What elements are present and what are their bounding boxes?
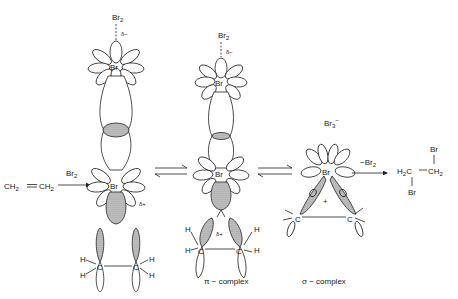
- reactant-ethylene: CH2 CH2: [4, 182, 55, 192]
- stage2-pi-complex: Br2 δ− Br Br: [185, 31, 260, 286]
- svg-text:C: C: [347, 215, 353, 224]
- svg-text:δ−: δ−: [121, 31, 128, 37]
- svg-text:Br2: Br2: [218, 31, 230, 41]
- svg-text:C: C: [198, 247, 204, 256]
- svg-text:CH2: CH2: [39, 182, 55, 192]
- svg-text:H: H: [149, 271, 155, 280]
- ethylene-p-orbitals: [96, 228, 140, 292]
- svg-text:CH2: CH2: [428, 167, 444, 177]
- equilibrium-arrows-2: [258, 165, 292, 177]
- svg-text:CH2: CH2: [4, 182, 20, 192]
- arrow-minus-br2: −Br2: [352, 158, 387, 173]
- svg-text:Br: Br: [110, 182, 118, 191]
- svg-text:δ−: δ−: [226, 49, 233, 55]
- svg-text:H: H: [80, 271, 86, 280]
- stage1-initial-complex: Br2 δ− Br Br δ+: [80, 13, 155, 292]
- svg-text:C: C: [133, 263, 139, 272]
- svg-text:Br: Br: [215, 79, 223, 88]
- equilibrium-arrows-1: [155, 165, 187, 177]
- svg-text:Br: Br: [408, 188, 416, 197]
- svg-text:C: C: [97, 263, 103, 272]
- svg-text:Br: Br: [110, 63, 118, 72]
- svg-text:Br: Br: [430, 145, 438, 154]
- svg-text:Br2: Br2: [112, 13, 124, 23]
- arrow-add-br2: Br2: [58, 169, 90, 185]
- svg-text:−Br2: −Br2: [360, 158, 377, 168]
- pi-complex-caption: π − complex: [204, 277, 248, 286]
- bromonium-orbitals: Br: [300, 143, 355, 178]
- svg-text:Br2: Br2: [66, 169, 78, 179]
- svg-text:H: H: [149, 255, 155, 264]
- svg-text:H: H: [254, 225, 260, 234]
- svg-text:H: H: [80, 255, 86, 264]
- svg-text:C: C: [236, 247, 242, 256]
- svg-text:Br3−: Br3−: [324, 117, 339, 129]
- stage3-sigma-complex: Br3− Br + C C σ − complex: [283, 117, 365, 286]
- svg-text:Br: Br: [322, 168, 330, 177]
- svg-text:+: +: [323, 197, 328, 206]
- product-dibromoethane: Br H2C CH2 Br: [397, 145, 444, 197]
- bottom-br-orbitals: Br δ+: [87, 166, 147, 224]
- reaction-diagram: CH2 CH2 Br2 Br2 δ− Br: [0, 0, 458, 299]
- svg-text:Br: Br: [215, 170, 223, 179]
- sigma-complex-caption: σ − complex: [302, 277, 346, 286]
- svg-text:δ+: δ+: [139, 201, 146, 207]
- svg-text:H: H: [185, 225, 191, 234]
- svg-text:H2C: H2C: [397, 167, 412, 177]
- svg-text:C: C: [295, 215, 301, 224]
- svg-text:δ+: δ+: [216, 231, 223, 237]
- svg-text:H: H: [254, 246, 260, 255]
- svg-text:H: H: [185, 246, 191, 255]
